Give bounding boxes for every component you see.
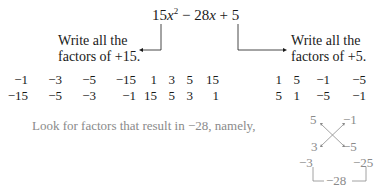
factor-cell: −5 (62, 72, 96, 88)
instruction-text: Look for factors that result in −28, nam… (32, 118, 255, 134)
right-label-line1: Write all the (291, 33, 366, 49)
factor-cell: 5 (282, 72, 300, 88)
factor-cell: −1 (96, 88, 136, 104)
product-right: −25 (353, 155, 373, 171)
factors-of-5-table: 1 5 −1 −5 5 1 −5 −1 (272, 72, 366, 104)
factor-cell: −15 (6, 88, 28, 104)
factor-cell: −3 (62, 88, 96, 104)
factor-cell: 5 (157, 88, 175, 104)
factor-cell: 1 (136, 72, 157, 88)
factor-cell: 3 (175, 88, 193, 104)
factors-15-top-row: −1 −3 −5 −15 1 3 5 15 (6, 72, 219, 88)
factor-cell: −15 (96, 72, 136, 88)
factors-15-bottom-row: −15 −5 −3 −1 15 5 3 1 (6, 88, 219, 104)
factor-cell: −5 (300, 88, 330, 104)
left-label-line2: factors of +15. (58, 49, 140, 65)
factor-cell: −3 (28, 72, 62, 88)
factor-cell: −1 (330, 88, 366, 104)
cross-bottom-right: −5 (343, 139, 357, 155)
cross-bottom-left: 3 (311, 139, 318, 155)
product-left: −3 (299, 155, 313, 171)
factor-cell: −5 (330, 72, 366, 88)
cross-top-left: 5 (310, 112, 317, 128)
cross-top-right: −1 (343, 112, 357, 128)
factor-cell: 3 (157, 72, 175, 88)
factor-cell: −5 (28, 88, 62, 104)
factor-cell: 15 (193, 72, 219, 88)
factors-5-bottom-row: 5 1 −5 −1 (272, 88, 366, 104)
factor-cell: −1 (6, 72, 28, 88)
right-instruction-label: Write all the factors of +5. (291, 33, 366, 65)
left-instruction-label: Write all the factors of +15. (58, 33, 140, 65)
sum-result: −28 (326, 173, 346, 186)
factors-5-top-row: 1 5 −1 −5 (272, 72, 366, 88)
factor-cell: 15 (136, 88, 157, 104)
right-label-line2: factors of +5. (291, 49, 366, 65)
factor-cell: 5 (175, 72, 193, 88)
factors-of-15-table: −1 −3 −5 −15 1 3 5 15 −15 −5 −3 −1 15 5 … (6, 72, 219, 104)
factor-cell: 5 (272, 88, 282, 104)
factor-cell: −1 (300, 72, 330, 88)
factor-cell: 1 (282, 88, 300, 104)
factor-cell: 1 (272, 72, 282, 88)
left-label-line1: Write all the (58, 33, 140, 49)
factor-cell: 1 (193, 88, 219, 104)
